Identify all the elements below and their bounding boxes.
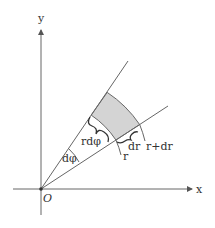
radial-increment-label: dr: [128, 140, 141, 153]
polar-area-element-diagram: y x O dφ rdφ dr r r+dr: [0, 0, 215, 228]
angle-label: dφ: [62, 152, 77, 165]
outer-radius-label: r+dr: [146, 140, 174, 153]
arc-length-label: rdφ: [81, 135, 101, 148]
origin-label: O: [43, 192, 52, 205]
outer-radius-arc: [140, 125, 145, 141]
inner-radius-label: r: [123, 150, 129, 163]
origin-point: [39, 187, 43, 191]
y-axis-label: y: [37, 12, 45, 25]
x-axis-label: x: [196, 183, 203, 196]
